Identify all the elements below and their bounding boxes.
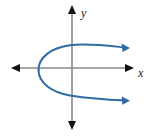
graph-canvas: y x (0, 0, 153, 139)
x-axis-left-arrowhead (11, 64, 20, 72)
parabola-upper-branch (39, 44, 127, 70)
y-axis-top-arrowhead (68, 5, 76, 14)
parabola-lower-branch (39, 70, 127, 101)
x-axis-right-arrowhead (125, 64, 134, 72)
y-axis-bottom-arrowhead (68, 121, 76, 130)
parabola-lower-arrowhead (122, 96, 130, 104)
parabola-upper-arrowhead (122, 44, 131, 52)
x-axis-label: x (137, 66, 144, 80)
y-axis-label: y (80, 6, 87, 20)
parabola-graph-figure: y x (0, 0, 153, 139)
